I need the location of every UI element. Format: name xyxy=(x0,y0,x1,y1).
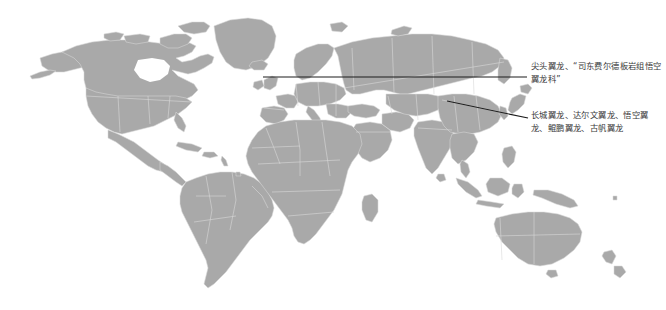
annotation-layer: 尖头翼龙、“司东费尔德板岩组悟空翼龙科” 长城翼龙、达尔文翼龙、悟空翼龙、鲲鹏翼… xyxy=(0,0,666,310)
world-map-figure: 尖头翼龙、“司东费尔德板岩组悟空翼龙科” 长城翼龙、达尔文翼龙、悟空翼龙、鲲鹏翼… xyxy=(0,0,666,310)
annotation-label-east-asia: 长城翼龙、达尔文翼龙、悟空翼龙、鲲鹏翼龙、古帆翼龙 xyxy=(531,109,663,135)
annotation-label-europe: 尖头翼龙、“司东费尔德板岩组悟空翼龙科” xyxy=(531,60,663,86)
